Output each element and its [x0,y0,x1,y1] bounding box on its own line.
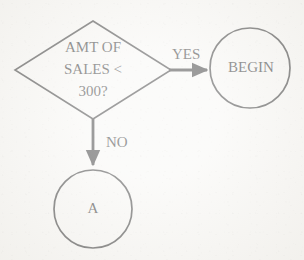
flowchart-svg: AMT OF SALES < 300? YES BEGIN NO A [0,0,304,260]
decision-text-line-3: 300? [78,83,108,99]
begin-label: BEGIN [228,59,274,75]
flowchart-canvas: AMT OF SALES < 300? YES BEGIN NO A [0,0,304,260]
connector-node-a[interactable]: A [54,170,132,248]
decision-text-line-2: SALES < [64,61,122,77]
no-label: NO [106,134,128,150]
decision-text-line-1: AMT OF [65,39,121,55]
decision-node[interactable]: AMT OF SALES < 300? [15,21,171,119]
yes-branch[interactable]: YES [169,46,207,70]
a-label: A [88,200,99,216]
no-branch[interactable]: NO [93,119,128,165]
yes-label: YES [172,46,200,62]
connector-node-begin[interactable]: BEGIN [210,28,290,108]
